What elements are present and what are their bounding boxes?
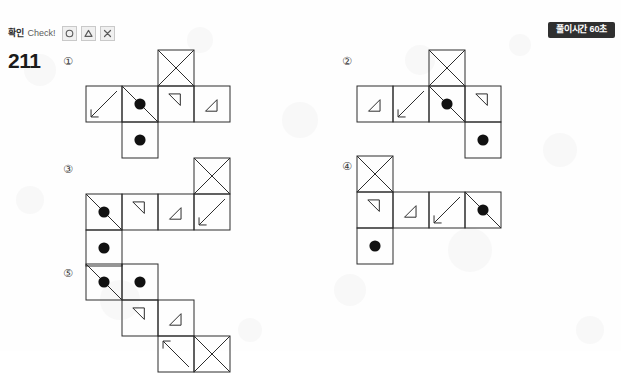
option-5-marker: ⑤ — [63, 268, 73, 279]
tri-small-br — [206, 100, 218, 112]
tri-small-br — [369, 100, 381, 112]
option-4-cell-4 — [465, 192, 501, 228]
check-label-korean: 확인 — [8, 29, 24, 38]
option-5-cell-3 — [158, 300, 194, 336]
tri-small-br — [170, 208, 182, 220]
close-button[interactable] — [100, 26, 115, 41]
option-3-cell-1 — [86, 194, 122, 230]
tri-small-br — [170, 314, 182, 326]
option-3-cell-4 — [194, 194, 230, 230]
option-1-cell-2 — [122, 86, 158, 122]
dot-center — [134, 98, 145, 109]
option-1-marker: ① — [63, 56, 73, 67]
option-2-cell-5 — [465, 122, 501, 158]
option-2-marker: ② — [342, 56, 352, 67]
option-4-net[interactable] — [356, 155, 502, 265]
option-3-marker: ③ — [63, 164, 73, 175]
option-5-net[interactable] — [85, 263, 267, 373]
close-icon — [103, 29, 112, 38]
option-1-cell-0 — [158, 50, 194, 86]
dot-center — [98, 276, 109, 287]
option-2-cell-4 — [465, 86, 501, 122]
option-5-cell-0 — [86, 264, 122, 300]
arrow-dl — [434, 197, 460, 223]
option-5-cell-2 — [122, 300, 158, 336]
triangle-icon — [84, 29, 93, 38]
option-4-marker: ④ — [342, 161, 352, 172]
option-4-cell-3 — [429, 192, 465, 228]
timer-badge: 풀이시간 60초 — [548, 22, 615, 38]
circle-icon — [65, 29, 74, 38]
option-1-net[interactable] — [85, 49, 231, 159]
tri-small-tl — [368, 200, 380, 212]
option-5-cell-5 — [194, 336, 230, 372]
tri-small-tl — [133, 308, 145, 320]
option-4-cell-0 — [357, 156, 393, 192]
dot-center — [477, 204, 488, 215]
option-2-cell-2 — [393, 86, 429, 122]
dot-center — [134, 134, 145, 145]
option-2-cell-0 — [429, 50, 465, 86]
tri-small-tl — [133, 202, 145, 214]
x-cross — [357, 156, 393, 192]
toolbar: 확인 Check! — [0, 24, 621, 44]
triangle-button[interactable] — [81, 26, 96, 41]
dot-center — [477, 134, 488, 145]
tri-small-br — [405, 206, 417, 218]
check-control-group: 확인 Check! — [8, 24, 115, 42]
option-3-cell-2 — [122, 194, 158, 230]
option-3-net[interactable] — [85, 157, 231, 267]
option-3-cell-3 — [158, 194, 194, 230]
dot-center — [441, 98, 452, 109]
x-cross — [158, 50, 194, 86]
tri-small-tl — [169, 94, 181, 106]
arrow-dl — [398, 91, 424, 117]
option-5-cell-1 — [122, 264, 158, 300]
option-4-cell-2 — [393, 192, 429, 228]
option-1-cell-1 — [86, 86, 122, 122]
tri-small-tl — [476, 94, 488, 106]
question-number: 211 — [8, 50, 40, 71]
arrow-dl — [91, 91, 117, 117]
arrow-ul — [163, 341, 189, 367]
option-1-cell-4 — [194, 86, 230, 122]
arrow-dl — [199, 199, 225, 225]
dot-center — [369, 240, 380, 251]
circle-button[interactable] — [62, 26, 77, 41]
option-1-cell-5 — [122, 122, 158, 158]
option-5-cell-4 — [158, 336, 194, 372]
x-cross — [194, 336, 230, 372]
option-3-cell-0 — [194, 158, 230, 194]
check-label-english: Check! — [28, 29, 56, 38]
x-cross — [194, 158, 230, 194]
option-3-cell-5 — [86, 230, 122, 266]
option-2-net[interactable] — [356, 49, 502, 159]
dot-center — [98, 242, 109, 253]
option-4-cell-1 — [357, 192, 393, 228]
x-cross — [429, 50, 465, 86]
option-2-cell-1 — [357, 86, 393, 122]
option-4-cell-5 — [357, 228, 393, 264]
option-2-cell-3 — [429, 86, 465, 122]
dot-center — [134, 276, 145, 287]
dot-center — [98, 206, 109, 217]
option-1-cell-3 — [158, 86, 194, 122]
